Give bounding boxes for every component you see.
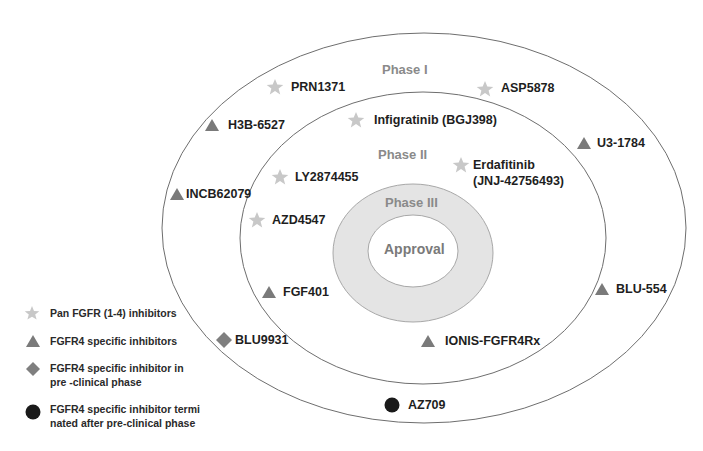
drug-label-erdafitinib-name: Erdafitinib (473, 158, 564, 173)
drug-label-ionis-fgfr4rx: IONIS-FGFR4Rx (445, 334, 540, 349)
star-icon (271, 168, 289, 186)
drug-label-h3b-6527: H3B-6527 (228, 118, 285, 133)
triangle-icon (577, 137, 591, 149)
drug-label-incb62079: INCB62079 (186, 187, 251, 202)
triangle-icon (421, 335, 435, 347)
drug-label-fgf401: FGF401 (283, 285, 329, 300)
triangle-icon (170, 188, 184, 200)
diamond-icon (26, 362, 40, 376)
star-icon (248, 211, 266, 229)
drug-label-azd4547: AZD4547 (272, 213, 326, 228)
fgfr-inhibitor-diagram: Phase I Phase II Phase III Approval PRN1… (0, 0, 703, 451)
star-icon (476, 80, 494, 98)
drug-label-az709: AZ709 (408, 398, 446, 413)
star-icon (347, 111, 365, 129)
legend-item-fgfr4-specific: FGFR4 specific inhibitors (50, 334, 210, 348)
phase2-label: Phase II (378, 147, 427, 162)
drug-label-u3-1784: U3-1784 (597, 136, 645, 151)
triangle-icon (262, 286, 276, 298)
drug-label-erdafitinib-code: (JNJ-42756493) (473, 174, 564, 189)
legend-item-pre-clinical: FGFR4 specific inhibitor in pre -clinica… (50, 361, 200, 389)
drug-label-blu-554: BLU-554 (616, 282, 667, 297)
triangle-icon (205, 119, 219, 131)
star-icon (24, 305, 40, 321)
legend-item-terminated: FGFR4 specific inhibitor termi nated aft… (50, 402, 200, 430)
circle-icon (25, 404, 41, 420)
drug-label-blu9931: BLU9931 (235, 333, 289, 348)
phase1-label: Phase I (382, 62, 428, 77)
phase3-label: Phase III (385, 195, 438, 210)
legend-item-pan-fgfr: Pan FGFR (1-4) inhibitors (50, 306, 210, 320)
drug-label-erdafitinib: Erdafitinib (JNJ-42756493) (473, 158, 564, 189)
star-icon (452, 156, 470, 174)
star-icon (266, 78, 284, 96)
circle-icon (384, 397, 400, 413)
approval-label: Approval (384, 241, 445, 257)
triangle-icon (595, 283, 609, 295)
triangle-icon (26, 335, 40, 347)
drug-label-asp5878: ASP5878 (501, 81, 555, 96)
drug-label-ly2874455: LY2874455 (295, 170, 359, 185)
diamond-icon (216, 332, 232, 348)
drug-label-prn1371: PRN1371 (291, 80, 345, 95)
drug-label-infigratinib: Infigratinib (BGJ398) (374, 113, 497, 128)
